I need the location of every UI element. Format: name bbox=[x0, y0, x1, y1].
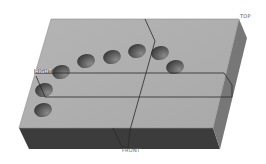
front-plane-label[interactable]: FRONT bbox=[122, 148, 140, 153]
right-plane-label[interactable]: RIGHT bbox=[34, 69, 53, 74]
top-plane-label[interactable]: TOP bbox=[240, 14, 251, 19]
block-front-face[interactable] bbox=[19, 128, 220, 149]
cad-model-viewport[interactable] bbox=[0, 0, 266, 164]
